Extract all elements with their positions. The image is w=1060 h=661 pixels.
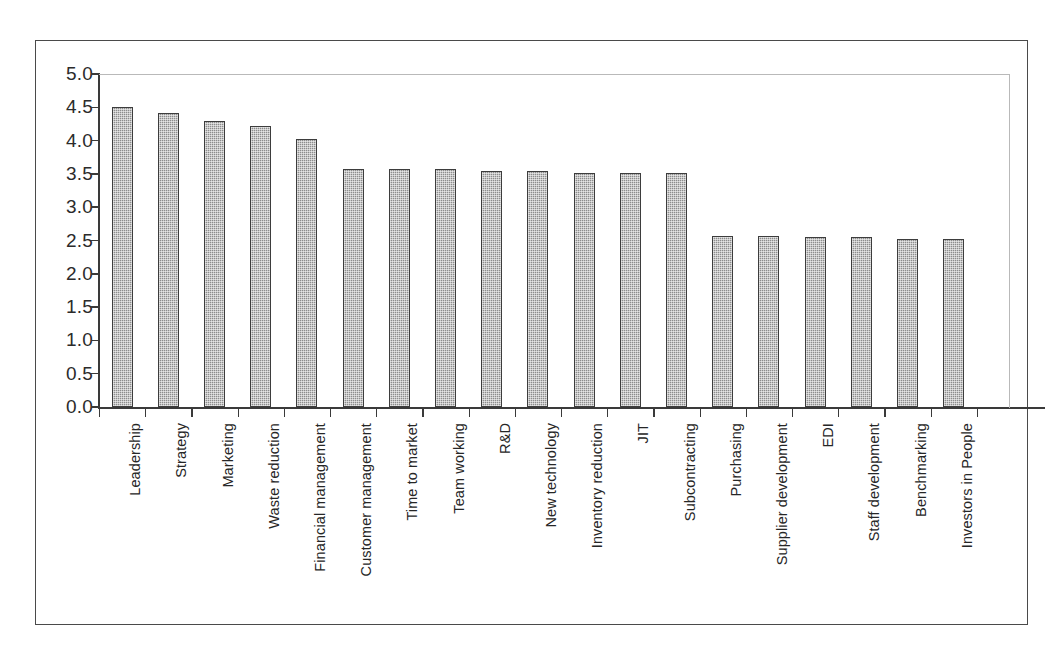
x-axis-tick-mark [653, 408, 654, 417]
bar [204, 121, 225, 407]
bar [250, 126, 271, 407]
y-axis-tick-mark [91, 406, 99, 408]
x-axis-category-label: JIT [636, 423, 651, 443]
y-axis-tick-label: 0.0 [66, 396, 93, 418]
x-axis-tick-mark [746, 408, 747, 417]
y-axis-tick-mark [91, 240, 99, 242]
bar-chart: 5.04.54.03.53.02.52.01.51.00.50.0 Leader… [36, 41, 1029, 626]
x-axis-category-label: Financial management [313, 423, 328, 572]
y-axis-tick-labels: 5.04.54.03.53.02.52.01.51.00.50.0 [36, 41, 99, 441]
x-axis-category-label: Investors in People [960, 423, 975, 548]
figure-frame: 5.04.54.03.53.02.52.01.51.00.50.0 Leader… [35, 40, 1028, 625]
plot-area [99, 74, 1010, 408]
x-axis-tick-mark [238, 408, 239, 417]
y-axis-tick-mark [91, 206, 99, 208]
x-axis-category-label: Subcontracting [683, 423, 698, 521]
x-axis-tick-mark [469, 408, 470, 417]
x-axis-category-label: Leadership [128, 423, 143, 496]
x-axis-category-label: Staff development [867, 423, 882, 541]
bar [296, 139, 317, 407]
x-axis-tick-mark [838, 408, 839, 417]
bar [343, 169, 364, 407]
x-axis-category-label: Customer management [359, 423, 374, 576]
x-axis-tick-mark [191, 408, 192, 417]
x-axis-tick-mark [330, 408, 331, 417]
x-axis-tick-mark [977, 408, 978, 417]
x-axis-tick-mark [422, 408, 423, 417]
bar [943, 239, 964, 407]
x-axis-tick-mark [99, 408, 100, 417]
y-axis-tick-mark [91, 73, 99, 75]
y-axis-tick-mark [91, 273, 99, 275]
bar [805, 237, 826, 407]
y-axis-tick-mark [91, 340, 99, 342]
y-axis-tick-label: 2.5 [66, 230, 93, 252]
x-axis-tick-mark [792, 408, 793, 417]
x-axis-tick-mark [515, 408, 516, 417]
x-axis-tick-mark [700, 408, 701, 417]
bar [527, 171, 548, 407]
x-axis-tick-mark [607, 408, 608, 417]
x-axis-category-label: Supplier development [775, 423, 790, 565]
x-axis-category-label: EDI [821, 423, 836, 447]
x-axis-category-label: Benchmarking [914, 423, 929, 517]
bar [389, 169, 410, 407]
x-axis-category-label: Inventory reduction [590, 423, 605, 548]
y-axis-tick-mark [91, 306, 99, 308]
bar [620, 173, 641, 407]
x-axis-category-label: Team working [452, 423, 467, 514]
bar [712, 236, 733, 407]
x-axis-tick-mark [376, 408, 377, 417]
x-axis-tick-mark [561, 408, 562, 417]
y-axis-tick-label: 0.5 [66, 363, 93, 385]
x-axis-tick-mark [931, 408, 932, 417]
x-axis-category-label: Strategy [174, 423, 189, 478]
y-axis-tick-label: 3.5 [66, 163, 93, 185]
x-axis-category-label: Purchasing [729, 423, 744, 497]
y-axis-tick-label: 1.5 [66, 296, 93, 318]
bar [481, 171, 502, 407]
bar [435, 169, 456, 407]
y-axis-tick-label: 4.5 [66, 96, 93, 118]
x-axis-category-label: Waste reduction [267, 423, 282, 529]
y-axis-tick-mark [91, 173, 99, 175]
y-axis-tick-mark [91, 373, 99, 375]
x-axis-category-label: R&D [498, 423, 513, 454]
bar [112, 107, 133, 407]
y-axis-tick-label: 3.0 [66, 196, 93, 218]
x-axis-category-label: Time to market [405, 423, 420, 521]
bar [158, 113, 179, 407]
bar [574, 173, 595, 407]
y-axis-tick-mark [91, 140, 99, 142]
bar [666, 173, 687, 407]
x-axis-tick-mark [145, 408, 146, 417]
x-axis-category-label: Marketing [221, 423, 236, 488]
y-axis-tick-label: 4.0 [66, 130, 93, 152]
x-axis-tick-mark [284, 408, 285, 417]
bar [897, 239, 918, 407]
y-axis-tick-label: 2.0 [66, 263, 93, 285]
y-axis-tick-label: 1.0 [66, 329, 93, 351]
x-axis-tick-mark [884, 408, 885, 417]
bar [758, 236, 779, 407]
y-axis-tick-label: 5.0 [66, 63, 93, 85]
y-axis-tick-mark [91, 107, 99, 109]
x-axis-category-label: New technology [544, 423, 559, 528]
bar [851, 237, 872, 407]
